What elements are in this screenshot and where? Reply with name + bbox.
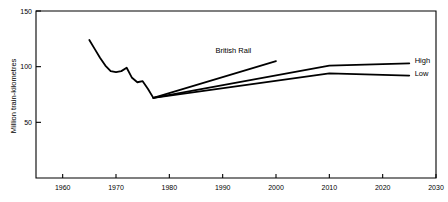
y-axis-title: Million train-kilometres [9, 58, 18, 133]
plot-frame [36, 11, 436, 178]
x-tick-label-1980: 1980 [162, 184, 178, 191]
annotation-low: Low [415, 69, 429, 78]
annotation-british-rail: British Rail [215, 46, 251, 55]
chart-ticks [36, 11, 436, 178]
x-tick-label-1970: 1970 [108, 184, 124, 191]
y-tick-label-100: 100 [20, 63, 32, 70]
series-line-historic [89, 40, 153, 98]
x-tick-label-2010: 2010 [322, 184, 338, 191]
x-tick-label-1960: 1960 [55, 184, 71, 191]
chart-annotations: British RailHighLow [215, 46, 430, 77]
chart-tick-labels: 1960197019801990200020102020203050100150 [20, 8, 444, 191]
x-tick-label-2030: 2030 [428, 184, 444, 191]
chart-axes [36, 11, 436, 178]
y-tick-label-150: 150 [20, 8, 32, 15]
line-chart: 1960197019801990200020102020203050100150… [0, 0, 448, 202]
x-tick-label-2020: 2020 [375, 184, 391, 191]
chart-container: 1960197019801990200020102020203050100150… [0, 0, 448, 202]
y-tick-label-50: 50 [24, 119, 32, 126]
x-tick-label-2000: 2000 [268, 184, 284, 191]
x-tick-label-1990: 1990 [215, 184, 231, 191]
annotation-high: High [415, 56, 430, 65]
